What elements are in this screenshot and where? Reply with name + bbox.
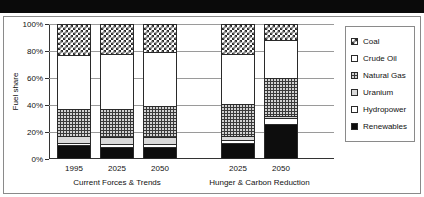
bar-segment-renewables [100,147,134,159]
checkerboard-swatch [351,38,358,45]
legend-item-natural-gas[interactable]: Natural Gas [351,67,410,84]
y-axis-tick [45,159,49,160]
legend-item-crude-oil[interactable]: Crude Oil [351,50,410,67]
legend-item-coal[interactable]: Coal [351,33,410,50]
y-axis-title: Fuel share [10,24,22,159]
bar-segment-crude-oil [57,55,91,109]
plot-area: 0%20%40%60%80%100% [49,24,334,159]
bar-segment-natural-gas [57,109,91,136]
y-axis-tick [45,132,49,133]
legend-item-hydropower[interactable]: Hydropower [351,101,410,118]
light-gray-swatch [351,89,358,96]
bar-segment-crude-oil [264,40,298,78]
bar-segment-renewables [57,145,91,159]
bar-segment-crude-oil [143,52,177,106]
y-axis-tick [45,24,49,25]
legend-item-label: Renewables [363,122,407,131]
bar-segment-natural-gas [143,106,177,137]
chart-legend: CoalCrude OilNatural GasUraniumHydropowe… [345,26,415,142]
white-swatch [351,106,358,113]
bar-segment-uranium [143,137,177,144]
bar-segment-coal [100,24,134,54]
legend-item-label: Coal [363,37,379,46]
stacked-bar [57,24,91,159]
x-axis-tick-label: 1995 [65,164,83,173]
x-axis-tick-label: 2050 [272,164,290,173]
bar-segment-coal [221,24,255,54]
white-swatch [351,55,358,62]
legend-item-label: Natural Gas [363,71,406,80]
bar-segment-renewables [221,143,255,159]
y-axis-tick-label: 100% [23,20,43,29]
bar-segment-renewables [264,124,298,159]
x-axis-tick-label: 2025 [108,164,126,173]
chart-panel: Fuel share 0%20%40%60%80%100% 1995202520… [3,16,421,194]
legend-item-label: Crude Oil [363,54,397,63]
bar-segment-renewables [143,147,177,159]
dark-dotted-swatch [351,72,358,79]
bar-segment-coal [264,24,298,40]
stacked-bar [100,24,134,159]
bar-segment-uranium [100,137,134,144]
top-black-band [0,0,424,13]
bar-segment-coal [57,24,91,55]
bar-segment-uranium [57,136,91,143]
legend-item-label: Uranium [363,88,393,97]
legend-item-uranium[interactable]: Uranium [351,84,410,101]
bar-segment-crude-oil [100,54,134,109]
x-axis-tick-label: 2050 [151,164,169,173]
stacked-bar [143,24,177,159]
x-axis-group-label: Current Forces & Trends [73,178,161,187]
y-axis-tick-label: 40% [27,101,43,110]
y-axis-tick [45,51,49,52]
y-axis-title-label: Fuel share [12,73,21,111]
bar-segment-natural-gas [100,109,134,137]
y-axis-tick-label: 0% [31,155,43,164]
x-axis-group-label: Hunger & Carbon Reduction [209,178,310,187]
x-axis-tick-label: 2025 [229,164,247,173]
legend-item-label: Hydropower [363,105,406,114]
y-axis-tick-label: 80% [27,47,43,56]
stacked-bar [264,24,298,159]
stacked-bar [221,24,255,159]
y-axis-tick [45,105,49,106]
legend-item-renewables[interactable]: Renewables [351,118,410,135]
bar-segment-crude-oil [221,54,255,104]
y-axis-tick [45,78,49,79]
bar-segment-natural-gas [264,78,298,116]
bar-segment-coal [143,24,177,52]
bar-segment-natural-gas [221,104,255,136]
y-axis-tick-label: 20% [27,128,43,137]
chart-figure: Fuel share 0%20%40%60%80%100% 1995202520… [0,0,424,197]
solid-black-swatch [351,123,358,130]
y-axis-tick-label: 60% [27,74,43,83]
